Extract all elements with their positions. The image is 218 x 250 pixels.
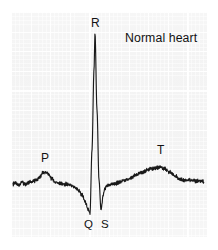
ecg-waveform-path — [13, 34, 204, 214]
ecg-figure: P R Q S T Normal heart — [0, 0, 218, 250]
label-s-wave: S — [101, 218, 109, 230]
label-q-wave: Q — [84, 218, 93, 230]
label-p-wave: P — [41, 152, 49, 164]
figure-title: Normal heart — [125, 32, 197, 44]
label-r-peak: R — [91, 17, 100, 29]
label-t-wave: T — [157, 144, 164, 156]
